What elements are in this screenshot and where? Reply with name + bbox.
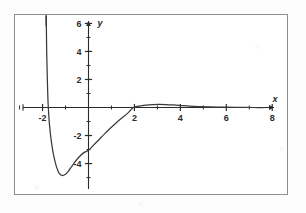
y-axis-tick-label: -2 [73, 131, 81, 141]
x-axis-tick-label: 4 [178, 113, 183, 123]
x-axis-arrow [269, 105, 274, 110]
x-axis-tick-label: -2 [39, 113, 47, 123]
y-axis-label: y [96, 18, 103, 28]
y-axis-tick-label: 2 [76, 75, 81, 85]
figure-frame: -22468-4-2246xy [14, 14, 288, 195]
x-axis-tick-label: 6 [224, 113, 229, 123]
x-axis-tick-label: 2 [132, 113, 137, 123]
plot-area: -22468-4-2246xy [15, 15, 287, 194]
x-axis-label: x [271, 94, 278, 104]
y-axis-tick-label: -4 [73, 159, 81, 169]
y-axis-tick-label: 4 [76, 47, 81, 57]
function-graph: -22468-4-2246xy [15, 15, 286, 193]
y-axis-tick-label: 6 [76, 19, 81, 29]
function-curve [46, 16, 263, 175]
x-axis-tick-label: 8 [270, 113, 275, 123]
